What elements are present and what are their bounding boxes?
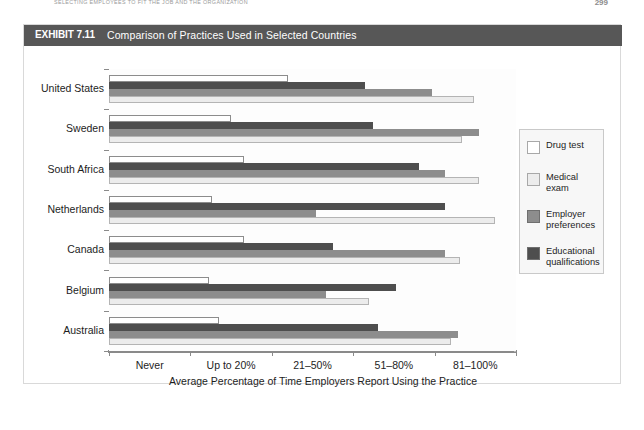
exhibit-header-bar: EXHIBIT 7.11 Comparison of Practices Use… <box>24 25 622 46</box>
bar <box>109 338 451 345</box>
y-axis-label-text: Australia <box>63 324 104 336</box>
y-axis-label-text: South Africa <box>47 163 104 175</box>
bar <box>109 156 244 163</box>
x-axis-tick <box>435 351 436 356</box>
bar <box>109 129 479 136</box>
bar <box>109 291 326 298</box>
chart-legend: Drug testMedical examEmployer preference… <box>519 129 604 274</box>
legend-swatch-icon <box>527 210 540 223</box>
bar <box>109 203 445 210</box>
exhibit-box: EXHIBIT 7.11 Comparison of Practices Use… <box>23 24 621 384</box>
bar <box>109 331 458 338</box>
y-axis-label-text: Sweden <box>66 122 104 134</box>
y-axis-tick <box>104 190 109 191</box>
legend-item-drug-test[interactable]: Drug test <box>527 140 584 154</box>
page-number: 299 <box>595 0 608 7</box>
legend-item-educational-qualifications[interactable]: Educational qualifications <box>527 246 603 268</box>
legend-item-medical-exam[interactable]: Medical exam <box>527 172 603 194</box>
legend-item-employer-preferences[interactable]: Employer preferences <box>527 209 603 231</box>
bar <box>109 163 419 170</box>
legend-swatch-icon <box>527 141 540 154</box>
legend-label: Employer preferences <box>546 209 603 231</box>
legend-label: Educational qualifications <box>546 246 603 268</box>
legend-label: Drug test <box>546 140 584 151</box>
bar <box>109 75 288 82</box>
bar <box>109 324 378 331</box>
bar <box>109 115 231 122</box>
bar <box>109 89 432 96</box>
x-axis-title: Average Percentage of Time Employers Rep… <box>24 375 622 387</box>
y-axis-label-text: United States <box>41 82 104 94</box>
bar <box>109 96 474 103</box>
x-axis-tick <box>353 351 354 356</box>
bar <box>109 317 219 324</box>
y-axis-label-text: Belgium <box>66 284 104 296</box>
plot-area <box>109 69 516 351</box>
bar <box>109 82 365 89</box>
y-axis-label-text: Netherlands <box>47 203 104 215</box>
running-head-text: SELECTING EMPLOYEES TO FIT THE JOB AND T… <box>54 0 248 5</box>
bar <box>109 217 495 224</box>
x-axis-label-1: Up to 20% <box>190 359 271 371</box>
legend-swatch-icon <box>527 247 540 260</box>
bar <box>109 122 373 129</box>
running-head: SELECTING EMPLOYEES TO FIT THE JOB AND T… <box>0 0 644 12</box>
y-axis-tick <box>104 150 109 151</box>
y-axis-tick <box>104 109 109 110</box>
x-axis-tick <box>190 351 191 356</box>
bar <box>109 277 209 284</box>
bar <box>109 210 316 217</box>
bar <box>109 196 212 203</box>
bar <box>109 257 460 264</box>
exhibit-title: Comparison of Practices Used in Selected… <box>107 29 357 41</box>
x-axis-tick <box>516 351 517 356</box>
y-axis-tick <box>104 311 109 312</box>
bar <box>109 136 462 143</box>
bar <box>109 284 396 291</box>
legend-swatch-icon <box>527 173 540 186</box>
x-axis-tick <box>109 351 110 356</box>
exhibit-label: EXHIBIT 7.11 <box>35 29 95 40</box>
x-axis-label-2: 21–50% <box>272 359 353 371</box>
y-axis-tick <box>104 270 109 271</box>
x-axis-label-0: Never <box>109 359 190 371</box>
y-axis-label-text: Canada <box>67 243 104 255</box>
legend-label: Medical exam <box>546 172 603 194</box>
bar <box>109 250 445 257</box>
bar <box>109 170 445 177</box>
bar <box>109 298 369 305</box>
y-axis-tick <box>104 230 109 231</box>
bar <box>109 243 333 250</box>
bar <box>109 177 479 184</box>
bar <box>109 236 244 243</box>
x-axis-tick <box>272 351 273 356</box>
y-axis-tick <box>104 69 109 70</box>
x-axis-label-3: 51–80% <box>353 359 434 371</box>
x-axis-label-4: 81–100% <box>435 359 516 371</box>
